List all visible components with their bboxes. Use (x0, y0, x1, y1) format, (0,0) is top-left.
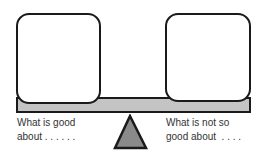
right-label-line2: good about . . . . (166, 131, 241, 142)
right-label-line1: What is not so (166, 117, 229, 128)
left-pan-label: What is good about . . . . . . (17, 116, 75, 144)
right-pan-box (165, 13, 251, 102)
right-pan-label: What is not so good about . . . . (166, 116, 241, 144)
left-pan-box (16, 13, 101, 104)
left-label-line1: What is good (17, 117, 75, 128)
fulcrum-triangle-icon (113, 114, 149, 150)
left-label-line2: about . . . . . . (17, 131, 75, 142)
